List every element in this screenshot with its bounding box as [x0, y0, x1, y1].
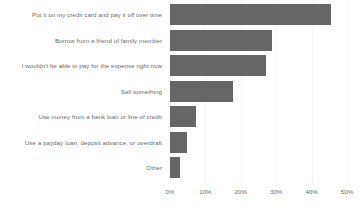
plot-area — [170, 0, 348, 184]
bar — [170, 55, 266, 76]
category-label: Use money from a bank loan or line of cr… — [38, 106, 162, 127]
bar — [170, 157, 180, 178]
horizontal-bar-chart: Put it on my credit card and pay it off … — [0, 0, 364, 212]
bar — [170, 132, 187, 153]
x-tick-label: 0% — [166, 188, 175, 195]
gridline-30pct — [276, 0, 277, 184]
x-tick-label: 50% — [341, 188, 353, 195]
bar — [170, 30, 272, 51]
category-label: I wouldn't be able to pay for the expens… — [22, 55, 162, 76]
category-label: Borrow from a friend of family member — [55, 30, 162, 51]
bar — [170, 4, 331, 25]
category-label: Other — [146, 157, 162, 178]
bar — [170, 81, 233, 102]
x-tick-label: 40% — [305, 188, 317, 195]
category-label: Put it on my credit card and pay it off … — [32, 4, 162, 25]
x-tick-label: 10% — [199, 188, 211, 195]
x-axis: 0%10%20%30%40%50% — [170, 184, 348, 212]
category-label: Sell something — [121, 81, 162, 102]
gridline-40pct — [312, 0, 313, 184]
x-tick-label: 30% — [270, 188, 282, 195]
x-tick-label: 20% — [235, 188, 247, 195]
gridline-20pct — [241, 0, 242, 184]
gridline-50pct — [347, 0, 348, 184]
bar — [170, 106, 196, 127]
category-label: Use a payday loan, deposit advance, or o… — [25, 132, 162, 153]
category-axis-labels: Put it on my credit card and pay it off … — [0, 0, 166, 184]
